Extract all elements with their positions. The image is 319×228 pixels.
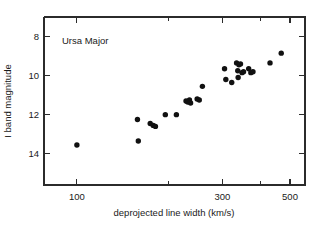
data-point: [174, 112, 179, 117]
data-point: [163, 112, 168, 117]
data-point: [250, 69, 255, 74]
data-point: [200, 84, 205, 89]
data-point: [238, 61, 243, 66]
data-point: [222, 66, 227, 71]
y-tick-label: 14: [28, 148, 39, 159]
y-axis-ticks: 8101214: [28, 31, 305, 159]
figure-container: 8101214 100300500 Ursa Major deprojected…: [0, 0, 319, 228]
data-points-layer: [74, 50, 284, 147]
y-tick-label: 12: [28, 109, 39, 120]
data-point: [267, 60, 272, 65]
y-tick-label: 8: [34, 31, 39, 42]
data-point: [279, 50, 284, 55]
data-point: [136, 138, 141, 143]
data-point: [235, 75, 240, 80]
y-axis-label: I band magnitude: [2, 64, 13, 137]
data-point: [188, 100, 193, 105]
data-point: [74, 142, 79, 147]
plot-annotation-label: Ursa Major: [62, 35, 108, 46]
y-tick-label: 10: [28, 70, 39, 81]
data-point: [223, 77, 228, 82]
x-tick-label: 100: [69, 191, 85, 202]
x-tick-label: 300: [214, 191, 230, 202]
data-point: [241, 69, 246, 74]
data-point: [229, 80, 234, 85]
data-point: [153, 124, 158, 129]
data-point: [135, 117, 140, 122]
data-point: [197, 97, 202, 102]
x-tick-label: 500: [282, 191, 298, 202]
scatter-plot: 8101214 100300500 Ursa Major deprojected…: [0, 0, 319, 228]
x-axis-label: deprojected line width (km/s): [114, 207, 235, 218]
